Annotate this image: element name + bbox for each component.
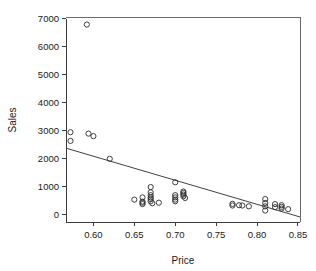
x-tick-label: 0.60 — [84, 229, 103, 240]
y-tick-label: 3000 — [38, 125, 59, 136]
plot-canvas: 010002000300040005000600070000.600.650.7… — [0, 0, 316, 271]
y-tick-label: 6000 — [38, 41, 59, 52]
scatter-plot-figure: 010002000300040005000600070000.600.650.7… — [0, 0, 316, 271]
data-point — [68, 130, 73, 135]
y-tick-label: 5000 — [38, 69, 59, 80]
x-tick-label: 0.85 — [289, 229, 308, 240]
x-tick-label: 0.80 — [248, 229, 267, 240]
tick-labels: 010002000300040005000600070000.600.650.7… — [38, 13, 307, 240]
regression-line — [66, 148, 300, 217]
y-tick-label: 1000 — [38, 181, 59, 192]
tick-marks — [62, 19, 298, 226]
x-tick-label: 0.65 — [125, 229, 144, 240]
frame-top-right — [66, 17, 300, 222]
x-tick-label: 0.75 — [207, 229, 226, 240]
data-point — [240, 203, 245, 208]
data-point — [86, 131, 91, 136]
data-points — [68, 22, 291, 213]
data-point — [68, 138, 73, 143]
data-point — [272, 205, 277, 210]
axes — [66, 19, 300, 222]
data-point — [156, 200, 161, 205]
plot-frame — [66, 17, 300, 222]
data-point — [148, 184, 153, 189]
data-point — [84, 22, 89, 27]
fit-line — [66, 148, 300, 217]
data-point — [246, 204, 251, 209]
y-axis-title: Sales — [7, 107, 18, 132]
data-point — [132, 197, 137, 202]
y-tick-label: 7000 — [38, 13, 59, 24]
x-tick-label: 0.70 — [166, 229, 185, 240]
data-point — [91, 134, 96, 139]
data-point — [286, 207, 291, 212]
y-tick-label: 2000 — [38, 153, 59, 164]
y-tick-label: 0 — [54, 209, 59, 220]
x-axis-title: Price — [172, 255, 195, 266]
y-tick-label: 4000 — [38, 97, 59, 108]
